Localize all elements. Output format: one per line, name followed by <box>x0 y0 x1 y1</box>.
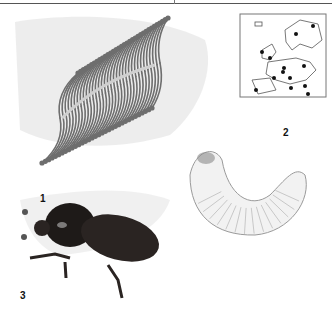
distribution-dot <box>302 64 306 68</box>
distribution-dot <box>289 86 293 90</box>
distribution-dot <box>272 76 276 80</box>
distribution-dot <box>294 32 298 36</box>
figure-label-2: 2 <box>283 127 289 138</box>
egg-cluster-illustration <box>15 16 208 165</box>
larva-illustration <box>190 152 306 235</box>
beetle-illustration <box>20 191 170 298</box>
distribution-dot <box>254 88 258 92</box>
distribution-dot <box>311 24 315 28</box>
figure-label-3: 3 <box>20 290 26 301</box>
distribution-dot <box>268 56 272 60</box>
distribution-dot <box>303 84 307 88</box>
figure-label-1: 1 <box>40 193 46 204</box>
distribution-dot <box>281 70 285 74</box>
distribution-dot <box>260 50 264 54</box>
distribution-dot <box>282 66 286 70</box>
illustration-plate <box>0 0 332 320</box>
europe-map <box>240 14 326 97</box>
distribution-dot <box>288 76 292 80</box>
distribution-dot <box>306 92 310 96</box>
